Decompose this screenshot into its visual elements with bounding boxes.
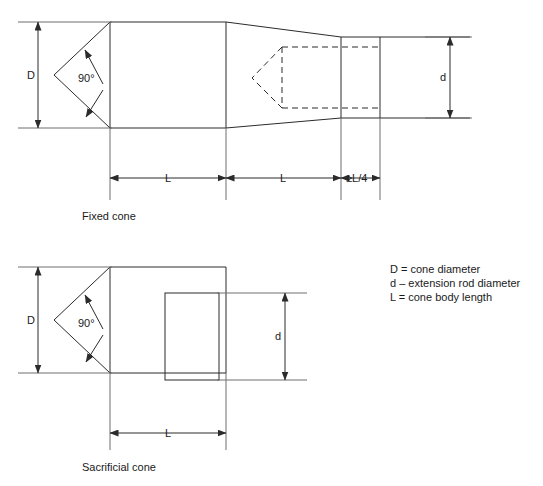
technical-drawing: D 90° d L [0, 0, 543, 486]
fixed-cone-dimension-d: d [425, 37, 472, 118]
fixed-cone-hidden-detail [252, 47, 380, 108]
cone-geometry-figure: D 90° d L [0, 0, 543, 486]
legend-item-D: D = cone diameter [390, 263, 481, 275]
fixed-cone-length-dimensions: L L ≥L/4 [110, 118, 380, 200]
dimension-label-D-sacrificial: D [27, 314, 35, 326]
fixed-cone-group: D 90° d L [18, 22, 472, 222]
fixed-cone-outline [54, 22, 470, 128]
legend-item-L: L = cone body length [390, 291, 492, 303]
sacrificial-cone-group: D 90° d L Sacrifi [18, 267, 307, 473]
dimension-label-D-fixed: D [27, 69, 35, 81]
sacrificial-cone-dimension-d: d [217, 293, 307, 380]
sacrificial-cone-extension-rod [165, 293, 219, 380]
dimension-label-L1-fixed: L [165, 172, 171, 184]
sacrificial-cone-caption: Sacrificial cone [82, 461, 156, 473]
dimension-label-L2-fixed: L [280, 172, 286, 184]
angle-label-90-sacrificial: 90° [78, 317, 95, 329]
dimension-label-L4-fixed: ≥L/4 [346, 172, 367, 184]
legend-item-d: d – extension rod diameter [390, 277, 521, 289]
sacrificial-cone-length-dimension: L [110, 373, 226, 450]
fixed-cone-angle-callout: 90° [78, 50, 103, 117]
fixed-cone-caption: Fixed cone [82, 210, 136, 222]
legend: D = cone diameter d – extension rod diam… [390, 263, 521, 303]
sacrificial-cone-angle-callout: 90° [78, 295, 103, 362]
dimension-label-L-sacrificial: L [165, 427, 171, 439]
angle-label-90-fixed: 90° [78, 72, 95, 84]
dimension-label-d-sacrificial: d [275, 330, 281, 342]
dimension-label-d-fixed: d [440, 71, 446, 83]
